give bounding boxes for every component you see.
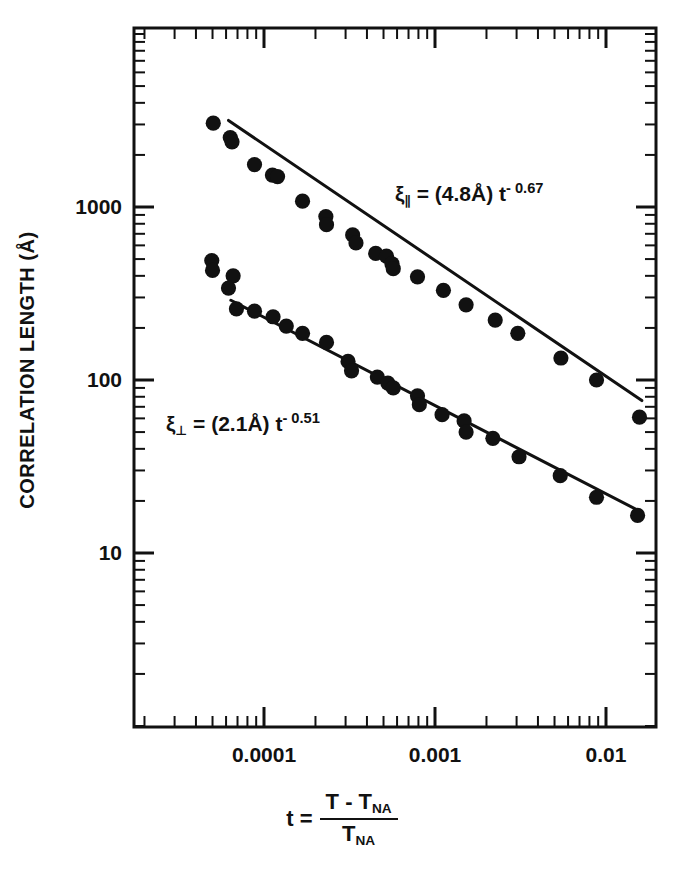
tick-labels: 1000100100.00010.0010.01	[75, 195, 626, 766]
data-points	[204, 116, 647, 523]
y-tick-label: 1000	[75, 195, 122, 218]
y-tick-label: 100	[87, 368, 122, 391]
fraction-denominator: TNA	[336, 820, 381, 849]
denominator-subscript: NA	[356, 832, 376, 847]
data-point-xi_perpendicular	[458, 424, 473, 439]
fraction-numerator: T - TNA	[320, 790, 398, 818]
data-point-xi_perpendicular	[279, 318, 294, 333]
denominator-text: T	[342, 821, 355, 846]
data-point-xi_parallel	[206, 116, 221, 131]
data-point-xi_parallel	[319, 217, 334, 232]
x-axis-title-fraction: T - TNA TNA	[320, 790, 398, 848]
numerator-text: T - T	[326, 789, 372, 814]
data-point-xi_perpendicular	[295, 326, 310, 341]
data-point-xi_parallel	[410, 269, 425, 284]
data-point-xi_parallel	[632, 410, 647, 425]
data-point-xi_parallel	[270, 169, 285, 184]
data-point-xi_perpendicular	[412, 397, 427, 412]
annotation-xi-perpendicular: ξ⊥ = (2.1Å) t- 0.51	[166, 410, 320, 438]
data-point-xi_perpendicular	[386, 380, 401, 395]
data-point-xi_perpendicular	[344, 363, 359, 378]
data-point-xi_parallel	[348, 235, 363, 250]
data-point-xi_perpendicular	[221, 280, 236, 295]
x-axis-title-lhs: t =	[286, 806, 312, 832]
data-point-xi_parallel	[589, 372, 604, 387]
data-point-xi_parallel	[436, 283, 451, 298]
data-point-xi_parallel	[247, 157, 262, 172]
x-tick-label: 0.01	[586, 743, 627, 766]
xi-perp-subscript: ⊥	[175, 423, 187, 438]
data-point-xi_perpendicular	[434, 407, 449, 422]
data-point-xi_perpendicular	[265, 309, 280, 324]
fit-line-xi_perpendicular	[231, 300, 642, 512]
annotation-xi-parallel: ξ∥ = (4.8Å) t- 0.67	[395, 180, 544, 208]
data-point-xi_perpendicular	[485, 431, 500, 446]
data-point-xi_parallel	[386, 261, 401, 276]
data-point-xi_parallel	[295, 194, 310, 209]
xi-perp-exponent: - 0.51	[282, 410, 320, 426]
data-point-xi_perpendicular	[589, 490, 604, 505]
axes-frame	[134, 28, 656, 727]
y-axis-ticks	[134, 34, 656, 726]
data-point-xi_parallel	[488, 312, 503, 327]
y-axis-title: CORRELATION LENGTH (Å)	[16, 231, 39, 508]
x-tick-label: 0.001	[409, 743, 462, 766]
data-point-xi_perpendicular	[205, 263, 220, 278]
data-point-xi_perpendicular	[630, 508, 645, 523]
data-point-xi_perpendicular	[319, 335, 334, 350]
data-point-xi_parallel	[510, 326, 525, 341]
xi-parallel-exponent: - 0.67	[506, 180, 544, 196]
data-point-xi_parallel	[553, 350, 568, 365]
xi-perp-symbol: ξ	[166, 412, 175, 435]
correlation-length-log-log-plot: 1000100100.00010.0010.01	[0, 0, 684, 878]
xi-parallel-expression: = (4.8Å) t	[411, 182, 506, 205]
x-axis-title: t = T - TNA TNA	[0, 790, 684, 848]
data-point-xi_perpendicular	[511, 449, 526, 464]
data-point-xi_perpendicular	[553, 468, 568, 483]
figure-container: 1000100100.00010.0010.01 CORRELATION LEN…	[0, 0, 684, 878]
xi-perp-expression: = (2.1Å) t	[187, 412, 282, 435]
y-tick-label: 10	[99, 541, 122, 564]
fit-line-xi_parallel	[228, 120, 641, 400]
numerator-subscript: NA	[372, 801, 392, 816]
xi-parallel-symbol: ξ	[395, 182, 404, 205]
data-point-xi_parallel	[224, 134, 239, 149]
data-point-xi_perpendicular	[229, 301, 244, 316]
data-point-xi_parallel	[458, 297, 473, 312]
data-point-xi_perpendicular	[247, 304, 262, 319]
x-tick-label: 0.0001	[232, 743, 297, 766]
y-axis-title-wrapper: CORRELATION LENGTH (Å)	[10, 160, 44, 580]
